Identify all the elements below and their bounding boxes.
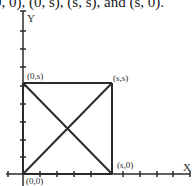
point-label-top-right: (s,s) [113, 73, 128, 83]
point-label-origin: (0,0) [26, 176, 43, 186]
point-label-top-left: (0,s) [27, 71, 43, 81]
square-diagram: Y X (0,s) (s,s) (s,0) (0,0) [0, 0, 193, 186]
point-label-bottom-right: (s,0) [117, 160, 133, 170]
x-axis-label: X [183, 161, 191, 173]
y-axis-label: Y [27, 12, 35, 24]
diagonals [23, 83, 112, 174]
